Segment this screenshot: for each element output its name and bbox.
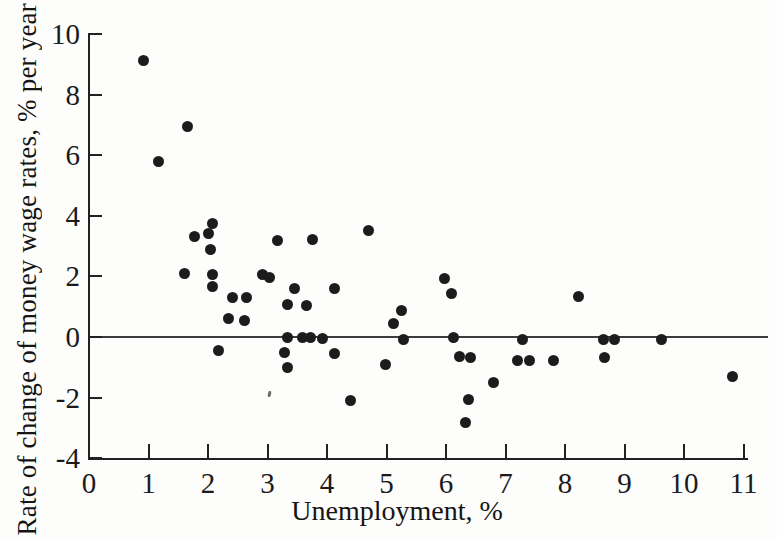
- data-point: [264, 272, 275, 283]
- data-point: [317, 333, 328, 344]
- data-point: [448, 332, 459, 343]
- x-tick: [624, 444, 626, 458]
- y-tick: [90, 94, 102, 96]
- data-point: [727, 371, 738, 382]
- y-tick-label: 2: [26, 259, 80, 293]
- data-point: [189, 231, 200, 242]
- data-point: [272, 235, 283, 246]
- data-point: [345, 395, 356, 406]
- data-point: [454, 351, 465, 362]
- scatter-plot-area: 1086420-2-401234567891011: [0, 0, 777, 538]
- x-tick-label: 11: [714, 466, 774, 500]
- data-point: [213, 345, 224, 356]
- data-point: [460, 417, 471, 428]
- data-point: [463, 394, 474, 405]
- y-tick-label: 4: [26, 199, 80, 233]
- data-point: [223, 313, 234, 324]
- data-point: [289, 283, 300, 294]
- data-point: [512, 355, 523, 366]
- y-tick: [90, 215, 102, 217]
- data-point: [599, 352, 610, 363]
- x-tick: [326, 444, 328, 458]
- data-point: [396, 305, 407, 316]
- data-point: [301, 300, 312, 311]
- y-tick: [90, 336, 102, 338]
- data-point: [239, 315, 250, 326]
- data-point: [329, 348, 340, 359]
- data-point: [598, 334, 609, 345]
- data-point: [488, 377, 499, 388]
- x-axis-title: Unemployment, %: [197, 492, 597, 530]
- data-point: [524, 355, 535, 366]
- x-tick: [386, 444, 388, 458]
- y-tick-label: 8: [26, 78, 80, 112]
- data-point: [398, 334, 409, 345]
- data-point: [203, 228, 214, 239]
- x-tick: [445, 444, 447, 458]
- data-point: [282, 362, 293, 373]
- data-point: [282, 299, 293, 310]
- y-tick: [90, 154, 102, 156]
- data-point: [138, 55, 149, 66]
- x-tick: [207, 444, 209, 458]
- x-tick: [564, 444, 566, 458]
- data-point: [548, 355, 559, 366]
- data-point: [380, 359, 391, 370]
- data-point: [227, 292, 238, 303]
- data-point: [305, 332, 316, 343]
- data-point: [207, 269, 218, 280]
- data-point: [182, 121, 193, 132]
- y-tick: [90, 457, 102, 459]
- y-tick: [90, 397, 102, 399]
- x-tick: [505, 444, 507, 458]
- x-tick-label: 9: [595, 466, 655, 500]
- data-point: [388, 318, 399, 329]
- y-tick-label: 6: [26, 138, 80, 172]
- x-tick: [683, 444, 685, 458]
- x-tick-label: 1: [119, 466, 179, 500]
- data-point: [517, 334, 528, 345]
- x-tick: [148, 444, 150, 458]
- x-tick-label: 10: [654, 466, 714, 500]
- data-point: [205, 244, 216, 255]
- y-tick-label: 0: [26, 320, 80, 354]
- x-tick-label: 0: [59, 466, 119, 500]
- data-point: [307, 234, 318, 245]
- data-point: [179, 268, 190, 279]
- data-point: [465, 352, 476, 363]
- x-tick: [743, 444, 745, 458]
- phillips-curve-figure: Rate of change of money wage rates, % pe…: [0, 0, 777, 538]
- x-axis-line: [88, 458, 748, 460]
- y-tick-label: 10: [26, 17, 80, 51]
- data-point: [656, 334, 667, 345]
- data-point: [446, 288, 457, 299]
- data-point: [573, 291, 584, 302]
- data-point: [241, 292, 252, 303]
- y-axis-line: [88, 33, 90, 459]
- data-point: [207, 281, 218, 292]
- data-point: [153, 156, 164, 167]
- data-point: [363, 225, 374, 236]
- data-point: [329, 283, 340, 294]
- data-point: [279, 347, 290, 358]
- y-tick-label: -2: [26, 381, 80, 415]
- y-tick: [90, 33, 102, 35]
- data-point: [282, 332, 293, 343]
- y-tick: [90, 275, 102, 277]
- data-point: [609, 334, 620, 345]
- x-tick: [267, 444, 269, 458]
- data-point: [439, 273, 450, 284]
